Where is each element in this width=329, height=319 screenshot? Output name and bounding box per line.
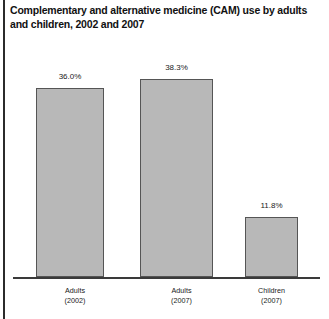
x-axis-baseline <box>13 277 320 279</box>
category-label: Adults (2002) <box>36 286 114 306</box>
bar-value-label: 11.8% <box>245 201 298 210</box>
bar <box>140 79 213 277</box>
bar-value-label: 36.0% <box>36 72 104 81</box>
category-label: Children (2007) <box>240 286 303 306</box>
category-label: Adults (2007) <box>140 286 223 306</box>
bar <box>36 88 104 277</box>
bar-value-label: 38.3% <box>140 63 213 72</box>
chart-figure: Complementary and alternative medicine (… <box>0 0 329 319</box>
bar <box>245 217 298 277</box>
plot-area: 36.0%Adults (2002)38.3%Adults (2007)11.8… <box>0 0 329 319</box>
